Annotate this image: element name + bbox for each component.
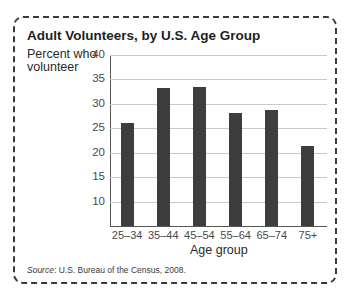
x-tick-label: 65–74 xyxy=(254,229,290,241)
bar-25–34 xyxy=(121,123,134,226)
bar-75+ xyxy=(301,146,314,226)
source-note: Source: U.S. Bureau of the Census, 2008. xyxy=(27,265,186,275)
y-tick-label: 40 xyxy=(83,48,105,60)
source-text: : U.S. Bureau of the Census, 2008. xyxy=(54,265,186,275)
y-tick-label: 10 xyxy=(83,195,105,207)
y-axis-line xyxy=(110,55,111,226)
x-tick-label: 45–54 xyxy=(181,229,217,241)
bar-35–44 xyxy=(157,88,170,226)
bar-55–64 xyxy=(229,113,242,226)
y-tick-label: 15 xyxy=(83,170,105,182)
y-tick-label: 20 xyxy=(83,146,105,158)
source-label: Source xyxy=(27,265,54,275)
chart-title: Adult Volunteers, by U.S. Age Group xyxy=(27,28,260,43)
gridline xyxy=(110,177,327,178)
x-tick-label: 75+ xyxy=(290,229,326,241)
gridline xyxy=(110,104,327,105)
y-tick-label: 25 xyxy=(83,121,105,133)
y-tick-label: 30 xyxy=(83,97,105,109)
gridline xyxy=(110,153,327,154)
x-axis-line xyxy=(110,226,327,227)
plot-area xyxy=(110,55,327,226)
bar-65–74 xyxy=(265,110,278,226)
gridline xyxy=(110,79,327,80)
x-axis-label: Age group xyxy=(190,243,248,257)
gridline xyxy=(110,128,327,129)
x-tick-label: 25–34 xyxy=(109,229,145,241)
gridline xyxy=(110,55,327,56)
x-tick-label: 35–44 xyxy=(145,229,181,241)
gridline xyxy=(110,202,327,203)
y-tick-label: 35 xyxy=(83,72,105,84)
bar-45–54 xyxy=(193,87,206,226)
x-tick-label: 55–64 xyxy=(218,229,254,241)
